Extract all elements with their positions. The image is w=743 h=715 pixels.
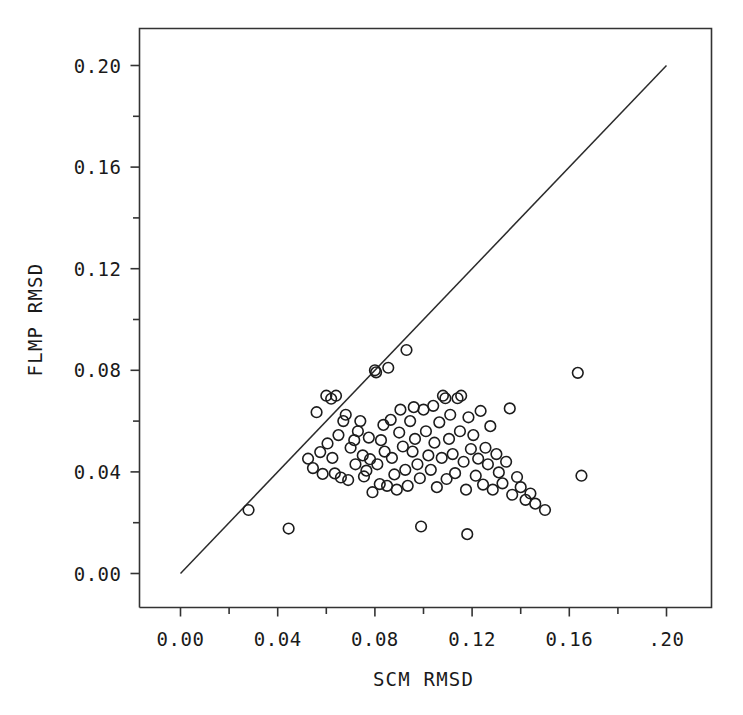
x-axis-title: SCM RMSD: [373, 668, 474, 690]
data-point-marker: [311, 407, 322, 418]
data-point-marker: [450, 468, 461, 479]
data-point-marker: [530, 498, 541, 509]
x-axis-tick-label: 0.08: [351, 628, 399, 650]
data-point-marker: [445, 409, 456, 420]
x-axis-tick-label: 0.12: [448, 628, 496, 650]
data-point-marker: [343, 475, 354, 486]
x-axis-tick-label: 0.00: [157, 628, 205, 650]
data-point-marker: [407, 446, 418, 457]
data-point-marker: [456, 390, 467, 401]
scatter-plot-figure: 0.000.040.080.120.16.200.000.040.080.120…: [0, 0, 743, 715]
data-point-marker: [455, 426, 466, 437]
data-point-marker: [376, 435, 387, 446]
data-point-marker: [350, 459, 361, 470]
y-axis-title: FLMP RMSD: [24, 263, 46, 377]
data-point-marker: [458, 456, 469, 467]
data-point-marker: [440, 393, 451, 404]
data-point-marker: [501, 456, 512, 467]
y-axis-tick-label: 0.08: [74, 359, 122, 381]
data-point-marker: [494, 467, 505, 478]
y-axis-tick-label: 0.20: [74, 55, 122, 77]
data-point-marker: [400, 465, 411, 476]
data-point-marker: [466, 444, 477, 455]
data-point-marker: [401, 345, 412, 356]
data-point-marker: [452, 393, 463, 404]
x-axis-tick-label: .20: [649, 628, 685, 650]
data-point-marker: [491, 449, 502, 460]
plot-canvas: 0.000.040.080.120.16.200.000.040.080.120…: [0, 0, 743, 715]
data-point-marker: [487, 484, 498, 495]
data-point-marker: [462, 529, 473, 540]
data-point-marker: [480, 442, 491, 453]
data-point-marker: [434, 417, 445, 428]
data-point-marker: [408, 402, 419, 413]
data-point-marker: [473, 453, 484, 464]
data-point-marker: [322, 438, 333, 449]
data-point-marker: [410, 434, 421, 445]
data-point-marker: [468, 430, 479, 441]
data-point-marker: [504, 403, 515, 414]
data-point-marker: [438, 390, 449, 401]
data-point-marker: [317, 469, 328, 480]
data-point-marker: [444, 434, 455, 445]
x-axis-tick-label: 0.16: [545, 628, 593, 650]
data-point-marker: [374, 479, 385, 490]
data-point-marker: [338, 416, 349, 427]
data-point-marker: [395, 404, 406, 415]
data-point-marker: [415, 473, 426, 484]
identity-reference-line: [181, 66, 667, 574]
y-axis-tick-label: 0.16: [74, 156, 122, 178]
data-points-group: [243, 345, 587, 540]
data-point-marker: [463, 412, 474, 423]
data-point-marker: [421, 426, 432, 437]
data-point-marker: [485, 421, 496, 432]
data-point-marker: [576, 470, 587, 481]
data-point-marker: [425, 465, 436, 476]
data-point-marker: [378, 420, 389, 431]
data-point-marker: [283, 523, 294, 534]
data-point-marker: [507, 489, 518, 500]
data-point-marker: [573, 368, 584, 379]
data-point-marker: [340, 409, 351, 420]
data-point-marker: [432, 482, 443, 493]
data-point-marker: [483, 459, 494, 470]
data-point-marker: [402, 481, 413, 492]
y-axis-tick-label: 0.12: [74, 258, 122, 280]
data-point-marker: [461, 484, 472, 495]
data-point-marker: [497, 478, 508, 489]
data-point-marker: [308, 463, 319, 474]
y-axis-tick-label: 0.04: [74, 461, 122, 483]
x-axis-tick-label: 0.04: [254, 628, 302, 650]
data-point-marker: [394, 427, 405, 438]
data-point-marker: [389, 469, 400, 480]
data-point-marker: [540, 505, 551, 516]
data-point-marker: [405, 416, 416, 427]
data-point-marker: [512, 472, 523, 483]
data-point-marker: [327, 453, 338, 464]
y-axis-tick-label: 0.00: [74, 563, 122, 585]
data-point-marker: [428, 401, 439, 412]
data-point-marker: [436, 453, 447, 464]
data-point-marker: [515, 482, 526, 493]
data-point-marker: [398, 441, 409, 452]
data-point-marker: [412, 459, 423, 470]
data-point-marker: [355, 416, 366, 427]
data-point-marker: [379, 446, 390, 457]
data-point-marker: [429, 437, 440, 448]
data-point-marker: [387, 453, 398, 464]
data-point-marker: [423, 450, 434, 461]
data-point-marker: [416, 521, 427, 532]
data-point-marker: [447, 449, 458, 460]
data-point-marker: [243, 505, 254, 516]
data-point-marker: [383, 362, 394, 373]
data-point-marker: [385, 415, 396, 426]
data-point-marker: [391, 484, 402, 495]
data-point-marker: [364, 432, 375, 443]
data-point-marker: [333, 430, 344, 441]
data-point-marker: [475, 406, 486, 417]
identity-line: [181, 66, 667, 574]
data-point-marker: [353, 426, 364, 437]
data-point-marker: [470, 470, 481, 481]
data-point-marker: [478, 479, 489, 490]
data-point-marker: [372, 459, 383, 470]
